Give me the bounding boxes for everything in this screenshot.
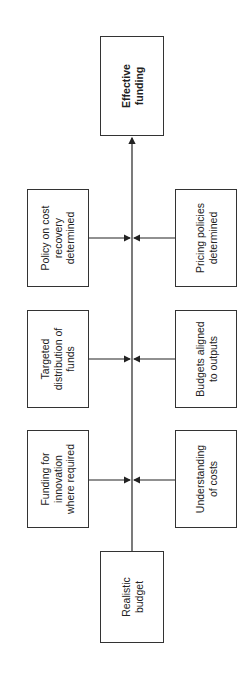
factor-box-budgets-aligned: Budgets aligned to outputs bbox=[175, 310, 237, 408]
factor-box-funding-innovation: Funding for innovation where required bbox=[27, 430, 89, 528]
factor-box-pricing-policies: Pricing policies determined bbox=[175, 189, 237, 287]
factor-box-policy-cost-recovery: Policy on cost recovery determined bbox=[27, 189, 89, 287]
factor-label: Targeted distribution of funds bbox=[39, 304, 77, 414]
factor-label: Pricing policies determined bbox=[194, 183, 219, 293]
factor-label: Budgets aligned to outputs bbox=[194, 304, 219, 414]
factor-box-targeted-distribution: Targeted distribution of funds bbox=[27, 310, 89, 408]
source-label: Realistic budget bbox=[120, 542, 145, 652]
factor-label: Funding for innovation where required bbox=[39, 424, 77, 534]
factor-label: Understanding of costs bbox=[194, 424, 219, 534]
source-box-realistic-budget: Realistic budget bbox=[100, 551, 164, 643]
goal-box-effective-funding: Effective funding bbox=[100, 36, 164, 136]
factor-box-understanding-costs: Understanding of costs bbox=[175, 430, 237, 528]
factor-label: Policy on cost recovery determined bbox=[39, 183, 77, 293]
goal-label: Effective funding bbox=[120, 31, 145, 141]
